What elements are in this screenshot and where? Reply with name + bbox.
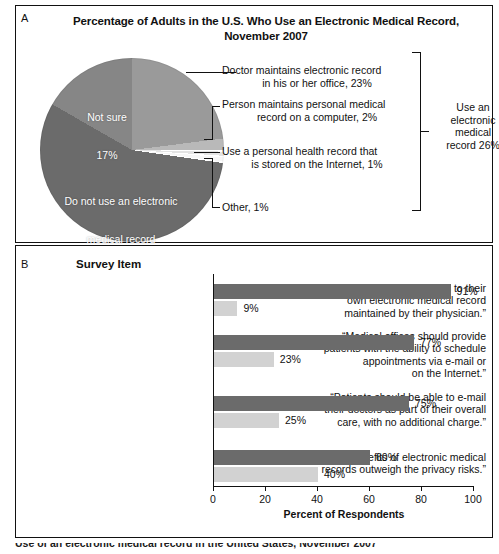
group-label-line3: medical — [440, 126, 499, 139]
x-axis-title: Percent of Respondents — [213, 508, 475, 520]
pie-label-not-sure-line2: 17% — [62, 149, 152, 162]
callout-other: Other, 1% — [222, 201, 412, 214]
bar-value-agree-1: 91% — [457, 284, 478, 299]
leader-bracket-other-bottom — [212, 207, 220, 208]
bar-agree-4 — [214, 450, 370, 465]
group-bracket-stem — [420, 131, 429, 132]
panel-a-letter: A — [21, 12, 28, 24]
group-label-line2: electronic — [440, 114, 499, 127]
x-tick-label-60: 60 — [349, 493, 389, 505]
leader-bracket-person-top — [212, 106, 220, 107]
panel-b-bar-chart: B Survey Item “Patients should have acce… — [15, 245, 493, 538]
panel-a-pie-chart: A Percentage of Adults in the U.S. Who U… — [15, 5, 493, 243]
leader-bracket-person-vertical — [212, 106, 213, 140]
bar-disagree-3 — [214, 413, 279, 428]
callout-personal-health-record: Use a personal health record that is sto… — [222, 145, 412, 170]
callout-person-line1: Person maintains personal medical — [222, 98, 412, 111]
callout-person-maintains: Person maintains personal medical record… — [222, 98, 412, 123]
bar-agree-1 — [214, 284, 451, 299]
group-label-line1: Use an — [440, 101, 499, 114]
panel-b-letter: B — [21, 258, 28, 270]
figure-caption: Use of an electronic medical record in t… — [15, 543, 475, 554]
survey-item-header: Survey Item — [76, 258, 141, 270]
x-tick-label-40: 40 — [297, 493, 337, 505]
leader-bracket-person-bottom — [204, 139, 213, 140]
pie-label-do-not-use-line2: medical record — [46, 233, 196, 246]
bar-disagree-4 — [214, 467, 318, 482]
x-tick-40 — [317, 486, 318, 491]
callout-doctor-maintains: Doctor maintains electronic record in hi… — [222, 64, 412, 89]
x-tick-label-20: 20 — [245, 493, 285, 505]
x-tick-label-100: 100 — [453, 493, 493, 505]
x-tick-label-0: 0 — [193, 493, 233, 505]
group-label-line4: record 26% — [440, 139, 499, 152]
x-tick-20 — [265, 486, 266, 491]
x-axis-line — [213, 486, 474, 487]
group-bracket-bottom — [412, 210, 421, 211]
leader-line-internet — [194, 152, 220, 153]
x-tick-label-80: 80 — [401, 493, 441, 505]
callout-person-line2: record on a computer, 2% — [222, 111, 412, 124]
callout-doctor-line1: Doctor maintains electronic record — [222, 64, 412, 77]
bar-value-disagree-4: 40% — [324, 467, 345, 482]
bar-value-disagree-1: 9% — [243, 301, 258, 316]
group-bracket-top — [412, 52, 421, 53]
bar-value-disagree-3: 25% — [285, 413, 306, 428]
panel-a-title-line2: November 2007 — [224, 30, 308, 42]
callout-doctor-line2: in his or her office, 23% — [222, 77, 412, 90]
bar-value-agree-2: 77% — [420, 335, 441, 350]
leader-bracket-other-top — [204, 158, 213, 159]
x-tick-0 — [213, 486, 214, 491]
pie-label-not-sure-line1: Not sure — [62, 111, 152, 124]
figure-caption-text: Use of an electronic medical record in t… — [15, 543, 475, 549]
callout-phr-line1: Use a personal health record that — [222, 145, 412, 158]
panel-a-title-line1: Percentage of Adults in the U.S. Who Use… — [73, 15, 459, 27]
leader-bracket-other-vertical — [212, 158, 213, 208]
bar-disagree-1 — [214, 301, 237, 316]
panel-a-title: Percentage of Adults in the U.S. Who Use… — [56, 14, 476, 44]
figure-container: A Percentage of Adults in the U.S. Who U… — [0, 0, 499, 554]
bar-agree-3 — [214, 396, 409, 411]
pie-chart: Not sure 17% Do not use an electronic me… — [40, 58, 224, 242]
x-tick-60 — [369, 486, 370, 491]
bar-value-disagree-2: 23% — [280, 352, 301, 367]
callout-other-line1: Other, 1% — [222, 201, 412, 214]
pie-label-do-not-use-line1: Do not use an electronic — [46, 195, 196, 208]
bar-agree-2 — [214, 335, 414, 350]
group-label-use-emr: Use an electronic medical record 26% — [440, 101, 499, 151]
callout-phr-line2: is stored on the Internet, 1% — [222, 158, 412, 171]
bar-disagree-2 — [214, 352, 274, 367]
x-tick-100 — [473, 486, 474, 491]
bar-chart-plot-area: 0 20 40 60 80 100 91% 9% 77% 23% 75% 25% — [213, 274, 473, 486]
bar-value-agree-3: 75% — [415, 396, 436, 411]
x-tick-80 — [421, 486, 422, 491]
bar-value-agree-4: 60% — [376, 450, 397, 465]
